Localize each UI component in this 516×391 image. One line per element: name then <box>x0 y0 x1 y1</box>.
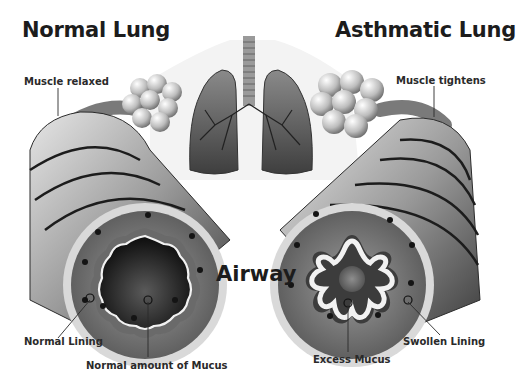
normal-lining-label: Normal Lining <box>24 336 103 347</box>
asthmatic-lung-title: Asthmatic Lung <box>335 18 516 42</box>
airway-label: Airway <box>216 262 296 286</box>
swollen-lining-label: Swollen Lining <box>403 336 485 347</box>
muscle-relaxed-label: Muscle relaxed <box>24 76 109 87</box>
normal-mucus-label: Normal amount of Mucus <box>86 360 228 371</box>
excess-mucus-label: Excess Mucus <box>313 354 390 365</box>
muscle-tightens-label: Muscle tightens <box>396 75 486 86</box>
normal-lung-title: Normal Lung <box>22 18 170 42</box>
